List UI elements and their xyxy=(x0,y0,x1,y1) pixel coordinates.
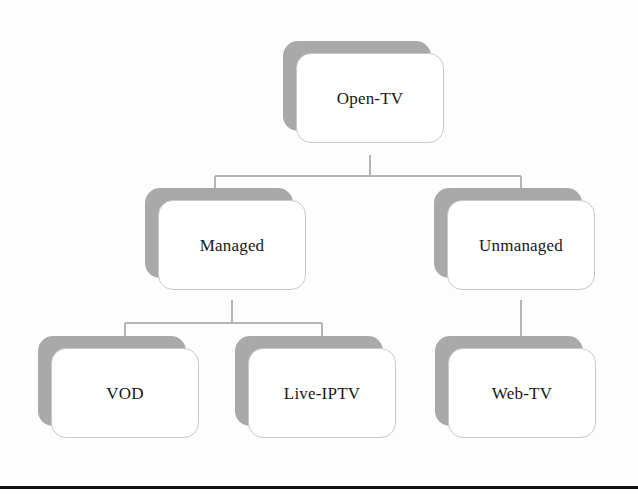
node-live-iptv-face[interactable]: Live-IPTV xyxy=(248,348,396,438)
node-web-tv-label: Web-TV xyxy=(492,385,552,402)
node-live-iptv-label: Live-IPTV xyxy=(284,385,360,402)
node-managed-face[interactable]: Managed xyxy=(158,200,306,290)
node-unmanaged-label: Unmanaged xyxy=(479,237,563,254)
page-bottom-rule xyxy=(0,486,638,489)
node-open-tv-label: Open-TV xyxy=(337,90,404,107)
diagram-canvas: Open-TV Managed Unmanaged VOD Live-IPTV … xyxy=(0,0,638,494)
node-vod-face[interactable]: VOD xyxy=(51,348,199,438)
node-open-tv-face[interactable]: Open-TV xyxy=(296,53,444,143)
node-web-tv-face[interactable]: Web-TV xyxy=(448,348,596,438)
node-vod-label: VOD xyxy=(106,385,143,402)
node-managed-label: Managed xyxy=(200,237,265,254)
node-unmanaged-face[interactable]: Unmanaged xyxy=(447,200,595,290)
